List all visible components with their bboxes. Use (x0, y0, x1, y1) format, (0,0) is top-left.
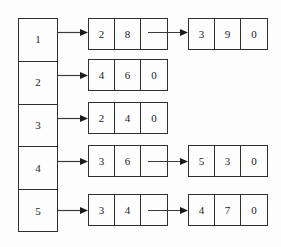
bucket-cell-4: 4 (19, 147, 57, 190)
node-value: 4 (199, 205, 205, 216)
node-cell-key: 3 (189, 19, 215, 49)
node-cell-key: 4 (189, 195, 215, 225)
node-value: 6 (125, 70, 131, 81)
bucket-label: 4 (35, 163, 41, 174)
node-cell-value: 4 (115, 195, 141, 225)
node-value: 3 (225, 156, 231, 167)
node-cell-key: 3 (89, 195, 115, 225)
bucket-2-to-node-arrow (58, 71, 88, 80)
list-node: 4 6 0 (88, 59, 168, 91)
node-value: 3 (99, 156, 105, 167)
bucket-4-to-node-arrow (58, 157, 88, 166)
node-cell-key: 2 (89, 19, 115, 49)
bucket-label: 2 (35, 77, 41, 88)
node-cell-value: 9 (215, 19, 241, 49)
list-node: 5 3 0 (188, 145, 268, 177)
node-cell-next (141, 19, 167, 49)
bucket-3-to-node-arrow (58, 114, 88, 123)
node-cell-key: 3 (89, 146, 115, 176)
node-cell-value: 6 (115, 146, 141, 176)
bucket-cell-5: 5 (19, 190, 57, 233)
node-value: 8 (125, 29, 131, 40)
bucket-1-to-node-arrow (58, 28, 88, 37)
list-node: 3 9 0 (188, 18, 268, 50)
node-cell-next: 0 (241, 19, 267, 49)
node-value: 2 (99, 113, 105, 124)
bucket-cell-3: 3 (19, 105, 57, 148)
list-node: 3 6 (88, 145, 168, 177)
node-cell-next (141, 195, 167, 225)
node-value: 4 (125, 113, 131, 124)
bucket-5-to-node-arrow (58, 206, 88, 215)
bucket-index-column: 1 2 3 4 5 (18, 18, 58, 232)
list-node: 2 4 0 (88, 102, 168, 134)
node-cell-value: 6 (115, 60, 141, 90)
node-value: 0 (251, 29, 257, 40)
bucket-cell-1: 1 (19, 19, 57, 62)
node-value: 3 (199, 29, 205, 40)
node-value: 4 (99, 70, 105, 81)
list-node: 4 7 0 (188, 194, 268, 226)
node-cell-next: 0 (141, 60, 167, 90)
node-cell-next: 0 (141, 103, 167, 133)
bucket-label: 1 (35, 34, 41, 45)
node-value: 0 (151, 70, 157, 81)
node-cell-key: 5 (189, 146, 215, 176)
node-value: 6 (125, 156, 131, 167)
hash-table-diagram: 1 2 3 4 5 2 8 (0, 0, 281, 247)
node-cell-value: 4 (115, 103, 141, 133)
list-node: 3 4 (88, 194, 168, 226)
node-cell-key: 4 (89, 60, 115, 90)
bucket-label: 5 (35, 206, 41, 217)
node-cell-value: 8 (115, 19, 141, 49)
node-value: 2 (99, 29, 105, 40)
node-value: 4 (125, 205, 131, 216)
node-value: 0 (251, 205, 257, 216)
node-cell-next: 0 (241, 195, 267, 225)
bucket-cell-2: 2 (19, 62, 57, 105)
node-value: 3 (99, 205, 105, 216)
node-cell-value: 3 (215, 146, 241, 176)
node-value: 0 (251, 156, 257, 167)
list-node: 2 8 (88, 18, 168, 50)
node-cell-next (141, 146, 167, 176)
node-cell-key: 2 (89, 103, 115, 133)
node-value: 7 (225, 205, 231, 216)
bucket-label: 3 (35, 120, 41, 131)
node-cell-next: 0 (241, 146, 267, 176)
node-value: 9 (225, 29, 231, 40)
node-value: 0 (151, 113, 157, 124)
node-cell-value: 7 (215, 195, 241, 225)
node-value: 5 (199, 156, 205, 167)
